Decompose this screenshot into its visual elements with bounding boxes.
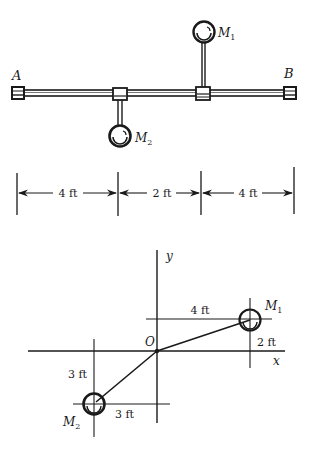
end-cap-b bbox=[284, 87, 296, 99]
label-m1-dy: 2 ft bbox=[257, 336, 277, 349]
rod-o-to-m2 bbox=[96, 351, 157, 402]
label-m2-dx: 3 ft bbox=[115, 408, 135, 421]
origin-dot bbox=[155, 349, 159, 353]
end-cap-a bbox=[12, 87, 24, 99]
label-m2-dy: 3 ft bbox=[68, 368, 88, 381]
label-m2-top: M2 bbox=[134, 131, 152, 147]
dim-label-2: 2 ft bbox=[153, 187, 173, 200]
label-a: A bbox=[11, 68, 21, 83]
mass-m2 bbox=[110, 100, 131, 147]
dim-label-1: 4 ft bbox=[59, 187, 79, 200]
label-m1-plot: M1 bbox=[264, 299, 282, 315]
coordinate-plot bbox=[28, 250, 285, 437]
x-axis-label: x bbox=[273, 354, 280, 368]
rod-o-to-m1 bbox=[157, 320, 250, 351]
collar-m1 bbox=[196, 87, 210, 100]
rod bbox=[18, 90, 292, 96]
label-m1-top: M1 bbox=[217, 26, 235, 42]
diagram-canvas: A B M1 M2 4 ft 2 ft 4 ft bbox=[0, 0, 309, 454]
dim-label-3: 4 ft bbox=[239, 187, 259, 200]
y-axis-label: y bbox=[165, 249, 173, 263]
rod-assembly: A B M1 M2 bbox=[11, 22, 296, 148]
collar-m2 bbox=[113, 88, 127, 100]
mass-m1 bbox=[194, 22, 215, 88]
label-m1-dx: 4 ft bbox=[191, 304, 211, 317]
origin-label: O bbox=[145, 335, 155, 349]
label-m2-plot: M2 bbox=[62, 415, 80, 431]
label-b: B bbox=[283, 66, 294, 81]
